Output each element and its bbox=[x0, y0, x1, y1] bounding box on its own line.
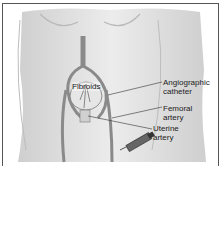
label-uterine-artery: Uterine artery bbox=[153, 124, 179, 142]
label-femoral-artery: Femoral artery bbox=[163, 104, 192, 122]
label-angiographic-catheter: Angiographic catheter bbox=[163, 78, 210, 96]
label-fibroids: Fibroids bbox=[72, 82, 100, 91]
